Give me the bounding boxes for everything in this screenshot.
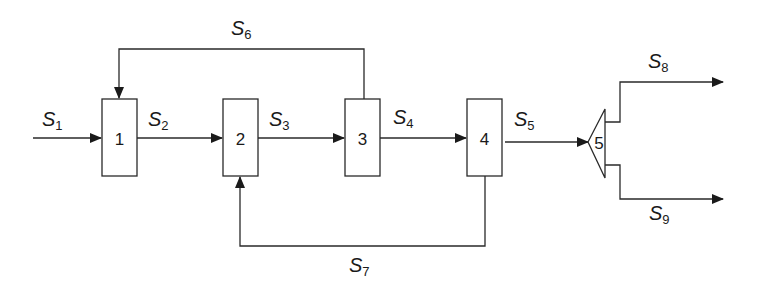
stream-s4-label: S4	[393, 106, 414, 131]
unit-5-label: 5	[594, 134, 603, 153]
stream-s1-label: S1	[42, 108, 63, 133]
stream-s2-label: S2	[148, 108, 169, 133]
stream-s6-recycle-arrow	[119, 49, 364, 99]
stream-s8-label: S8	[648, 50, 669, 75]
process-flow-diagram: 1 2 3 4 5 S1 S2 S3 S4 S5 S6 S7 S8 S9	[0, 0, 762, 298]
stream-s9-label: S9	[649, 202, 670, 227]
unit-3-label: 3	[358, 130, 367, 149]
unit-1-label: 1	[115, 130, 124, 149]
stream-s8-arrow	[605, 82, 723, 122]
stream-s7-recycle-arrow	[240, 176, 485, 246]
stream-s6-label: S6	[231, 17, 252, 42]
stream-s7-label: S7	[349, 254, 370, 279]
unit-4-label: 4	[480, 130, 489, 149]
stream-s3-label: S3	[269, 108, 290, 133]
unit-2-label: 2	[236, 130, 245, 149]
stream-s9-arrow	[605, 165, 723, 199]
stream-s5-label: S5	[514, 108, 535, 133]
